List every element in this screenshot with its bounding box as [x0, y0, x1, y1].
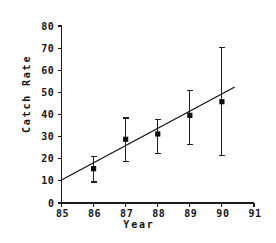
x-tick-label-91: 91 — [248, 208, 261, 219]
y-tick-label-40: 40 — [41, 109, 54, 120]
y-tick-label-60: 60 — [41, 65, 54, 76]
x-tick-label-86: 86 — [88, 208, 101, 219]
y-tick-label-70: 70 — [41, 43, 54, 54]
y-tick-label-10: 10 — [41, 175, 54, 186]
x-tick-label-90: 90 — [216, 208, 229, 219]
data-point-87 — [123, 137, 128, 142]
y-tick-label-50: 50 — [41, 87, 54, 98]
data-point-89 — [187, 113, 192, 118]
data-point-88 — [155, 131, 160, 136]
x-tick-label-85: 85 — [56, 208, 69, 219]
y-tick-label-30: 30 — [41, 131, 54, 142]
chart-background — [0, 0, 276, 243]
y-tick-label-80: 80 — [41, 21, 54, 32]
y-tick-labels: 01020304050607080 — [41, 21, 54, 209]
catch-rate-scatter-plot: Catch Rate Year 01020304050607080 858687… — [0, 0, 276, 243]
y-tick-label-0: 0 — [48, 198, 55, 209]
y-axis-title: Catch Rate — [21, 55, 32, 133]
x-tick-label-89: 89 — [184, 208, 197, 219]
x-tick-label-88: 88 — [152, 208, 165, 219]
y-tick-label-20: 20 — [41, 153, 54, 164]
chart-figure: Catch Rate Year 01020304050607080 858687… — [0, 0, 276, 243]
data-point-86 — [91, 166, 96, 171]
x-axis-title: Year — [123, 219, 154, 230]
x-tick-label-87: 87 — [120, 208, 133, 219]
data-point-90 — [219, 99, 224, 104]
